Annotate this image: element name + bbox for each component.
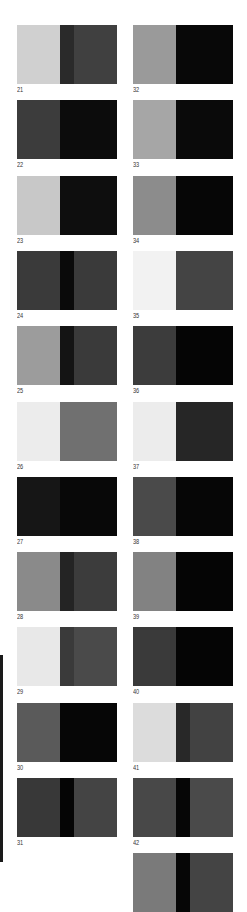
color-swatch bbox=[17, 703, 117, 762]
swatch-left-block bbox=[17, 402, 60, 461]
left-edge-bar bbox=[0, 655, 3, 862]
swatch-right-block bbox=[176, 176, 233, 235]
swatch-left-block bbox=[17, 251, 60, 310]
swatch-left-block bbox=[133, 402, 176, 461]
swatch-label: 24 bbox=[17, 312, 23, 319]
swatch-strip bbox=[60, 778, 74, 837]
swatch-left-block bbox=[133, 100, 176, 159]
color-swatch bbox=[133, 402, 233, 461]
swatch-right-block bbox=[176, 326, 233, 385]
swatch-label: 39 bbox=[133, 613, 139, 620]
swatch-label: 38 bbox=[133, 538, 139, 545]
color-swatch bbox=[17, 477, 117, 536]
color-swatch bbox=[133, 251, 233, 310]
swatch-label: 27 bbox=[17, 538, 23, 545]
swatch-left-block bbox=[17, 100, 60, 159]
color-swatch bbox=[17, 100, 117, 159]
swatch-right-block bbox=[176, 100, 233, 159]
swatch-label: 29 bbox=[17, 688, 23, 695]
swatch-right-block bbox=[176, 25, 233, 84]
swatch-strip bbox=[60, 25, 74, 84]
swatch-strip bbox=[60, 552, 74, 611]
swatch-label: 28 bbox=[17, 613, 23, 620]
color-swatch bbox=[133, 25, 233, 84]
color-swatch bbox=[133, 326, 233, 385]
swatch-left-block bbox=[133, 552, 176, 611]
swatch-label: 26 bbox=[17, 463, 23, 470]
swatch-left-block bbox=[133, 477, 176, 536]
swatch-label: 25 bbox=[17, 387, 23, 394]
swatch-label: 33 bbox=[133, 161, 139, 168]
swatch-right-block bbox=[176, 251, 233, 310]
swatch-strip bbox=[176, 703, 190, 762]
swatch-right-block bbox=[190, 778, 233, 837]
color-swatch bbox=[133, 853, 233, 912]
color-swatch bbox=[17, 25, 117, 84]
swatch-left-block bbox=[17, 176, 60, 235]
color-swatch bbox=[17, 552, 117, 611]
color-swatch bbox=[17, 402, 117, 461]
swatch-left-block bbox=[133, 627, 176, 686]
color-swatch bbox=[133, 100, 233, 159]
swatch-right-block bbox=[74, 627, 117, 686]
swatch-left-block bbox=[133, 25, 176, 84]
swatch-left-block bbox=[133, 176, 176, 235]
swatch-right-block bbox=[176, 477, 233, 536]
color-swatch bbox=[133, 176, 233, 235]
swatch-left-block bbox=[17, 778, 60, 837]
swatch-label: 31 bbox=[17, 839, 23, 846]
swatch-left-block bbox=[133, 703, 176, 762]
swatch-right-block bbox=[190, 853, 233, 912]
swatch-strip bbox=[60, 326, 74, 385]
color-swatch bbox=[133, 552, 233, 611]
swatch-label: 30 bbox=[17, 764, 23, 771]
swatch-right-block bbox=[74, 251, 117, 310]
swatch-right-block bbox=[176, 402, 233, 461]
color-swatch bbox=[17, 326, 117, 385]
swatch-left-block bbox=[133, 326, 176, 385]
swatch-label: 41 bbox=[133, 764, 139, 771]
color-swatch bbox=[133, 627, 233, 686]
swatch-right-block bbox=[74, 25, 117, 84]
swatch-right-block bbox=[60, 477, 117, 536]
swatch-right-block bbox=[176, 552, 233, 611]
swatch-label: 35 bbox=[133, 312, 139, 319]
swatch-left-block bbox=[17, 627, 60, 686]
swatch-label: 42 bbox=[133, 839, 139, 846]
color-swatch bbox=[133, 703, 233, 762]
swatch-right-block bbox=[60, 703, 117, 762]
color-swatch bbox=[17, 778, 117, 837]
swatch-label: 23 bbox=[17, 237, 23, 244]
swatch-label: 21 bbox=[17, 86, 23, 93]
swatch-label: 36 bbox=[133, 387, 139, 394]
swatch-strip bbox=[60, 251, 74, 310]
color-swatch bbox=[17, 176, 117, 235]
swatch-right-block bbox=[74, 778, 117, 837]
swatch-label: 34 bbox=[133, 237, 139, 244]
swatch-right-block bbox=[60, 100, 117, 159]
swatch-strip bbox=[176, 778, 190, 837]
swatch-strip bbox=[176, 853, 190, 912]
swatch-left-block bbox=[133, 778, 176, 837]
swatch-left-block bbox=[17, 703, 60, 762]
color-swatch bbox=[133, 477, 233, 536]
swatch-right-block bbox=[74, 552, 117, 611]
swatch-right-block bbox=[60, 176, 117, 235]
swatch-label: 22 bbox=[17, 161, 23, 168]
swatch-left-block bbox=[17, 25, 60, 84]
swatch-left-block bbox=[133, 251, 176, 310]
swatch-left-block bbox=[133, 853, 176, 912]
color-swatch bbox=[17, 627, 117, 686]
swatch-label: 40 bbox=[133, 688, 139, 695]
swatch-right-block bbox=[60, 402, 117, 461]
swatch-right-block bbox=[74, 326, 117, 385]
swatch-left-block bbox=[17, 326, 60, 385]
color-swatch bbox=[133, 778, 233, 837]
swatch-left-block bbox=[17, 477, 60, 536]
swatch-label: 37 bbox=[133, 463, 139, 470]
swatch-left-block bbox=[17, 552, 60, 611]
swatch-strip bbox=[60, 627, 74, 686]
swatch-label: 32 bbox=[133, 86, 139, 93]
color-swatch bbox=[17, 251, 117, 310]
swatch-right-block bbox=[190, 703, 233, 762]
